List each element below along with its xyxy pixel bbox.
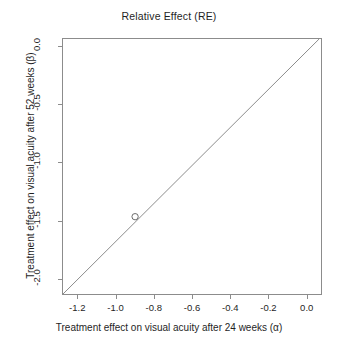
x-tick-label: 0.0 xyxy=(290,302,324,313)
x-tick-mark xyxy=(116,295,117,299)
x-tick-label: -0.4 xyxy=(213,302,247,313)
plot-panel xyxy=(62,38,322,295)
y-tick-label: -1.5 xyxy=(31,202,42,236)
y-tick-label: -1.0 xyxy=(31,144,42,178)
x-tick-label: -1.0 xyxy=(99,302,133,313)
x-tick-label: -1.2 xyxy=(60,302,94,313)
x-tick-mark xyxy=(268,295,269,299)
y-tick-label: -0.5 xyxy=(31,86,42,120)
x-tick-label: -0.2 xyxy=(251,302,285,313)
x-tick-label: -0.8 xyxy=(137,302,171,313)
y-tick-mark xyxy=(58,46,62,47)
y-tick-mark xyxy=(58,104,62,105)
y-tick-mark xyxy=(58,162,62,163)
y-tick-label: -2.0 xyxy=(31,260,42,294)
x-tick-mark xyxy=(77,295,78,299)
x-tick-label: -0.6 xyxy=(175,302,209,313)
y-tick-mark xyxy=(58,221,62,222)
data-point-marker xyxy=(132,214,138,220)
plot-canvas xyxy=(63,39,321,294)
chart-figure: Relative Effect (RE) Treatment effect on… xyxy=(0,0,338,347)
y-tick-mark xyxy=(58,279,62,280)
chart-title: Relative Effect (RE) xyxy=(0,10,338,22)
x-tick-mark xyxy=(307,295,308,299)
x-tick-mark xyxy=(192,295,193,299)
x-tick-mark xyxy=(154,295,155,299)
series-layer xyxy=(63,39,319,294)
x-tick-mark xyxy=(230,295,231,299)
identity-line xyxy=(63,39,319,294)
x-axis-title: Treatment effect on visual acuity after … xyxy=(0,322,338,333)
y-tick-label: 0.0 xyxy=(31,28,42,62)
